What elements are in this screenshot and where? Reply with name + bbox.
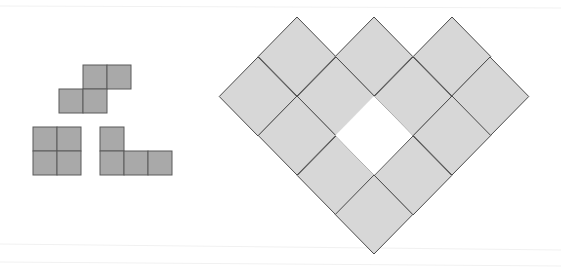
s-tetromino <box>59 65 131 113</box>
tetromino-pieces <box>33 65 172 175</box>
piece-cell <box>57 151 81 175</box>
piece-cell <box>107 65 131 89</box>
piece-cell <box>57 127 81 151</box>
piece-cell <box>59 89 83 113</box>
piece-cell <box>100 127 124 151</box>
piece-cell <box>83 89 107 113</box>
o-tetromino <box>33 127 81 175</box>
puzzle-diagram <box>0 0 561 278</box>
piece-cell <box>33 127 57 151</box>
piece-cell <box>148 151 172 175</box>
piece-cell <box>100 151 124 175</box>
piece-cell <box>124 151 148 175</box>
heart-region <box>219 17 529 254</box>
l-tetromino <box>100 127 172 175</box>
piece-cell <box>33 151 57 175</box>
piece-cell <box>83 65 107 89</box>
